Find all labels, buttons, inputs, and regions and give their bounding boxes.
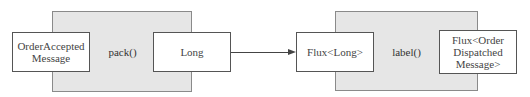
node-label: Flux<Long>: [307, 46, 363, 58]
node-label-line: Flux<Order: [452, 34, 504, 46]
flux-long-node: Flux<Long>: [296, 32, 374, 72]
pack-operation-label: pack(): [95, 46, 150, 58]
flux-order-dispatched-message-node: Flux<Order Dispatched Message>: [439, 30, 517, 74]
label-operation-label: label(): [379, 46, 434, 58]
arrow-head-icon: [288, 49, 296, 55]
node-label: Long: [180, 46, 203, 58]
node-label-line: Message: [17, 52, 84, 64]
node-label-line: Message>: [452, 58, 504, 70]
connector-arrow: [231, 52, 289, 53]
long-node: Long: [153, 32, 231, 72]
node-label-line: OrderAccepted: [17, 40, 84, 52]
node-label-line: Dispatched: [452, 46, 504, 58]
order-accepted-message-node: OrderAccepted Message: [12, 32, 90, 72]
